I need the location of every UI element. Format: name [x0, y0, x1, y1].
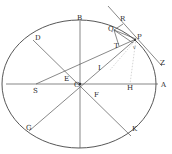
line-SP — [36, 39, 136, 84]
diameter-GP-line — [29, 39, 136, 131]
label-v: v — [132, 44, 136, 50]
point-P — [134, 39, 136, 41]
label-S: S — [33, 87, 38, 95]
label-K: K — [132, 125, 138, 133]
label-G: G — [26, 124, 32, 132]
label-B: B — [77, 14, 82, 22]
label-E: E — [64, 75, 69, 83]
diameter-DK-line — [33, 40, 131, 136]
label-A: A — [160, 81, 167, 89]
label-H: H — [127, 84, 133, 92]
label-I: I — [98, 64, 101, 72]
ellipse-diagram: B D E I S C F H A G K R Q T P Z v — [0, 0, 172, 154]
label-F: F — [94, 91, 99, 99]
label-C: C — [74, 81, 79, 89]
label-R: R — [120, 15, 126, 23]
label-Q: Q — [108, 25, 114, 33]
label-T: T — [114, 42, 119, 50]
point-C — [79, 83, 82, 86]
label-Z: Z — [160, 59, 165, 67]
label-D: D — [35, 34, 41, 42]
label-P: P — [137, 33, 142, 41]
